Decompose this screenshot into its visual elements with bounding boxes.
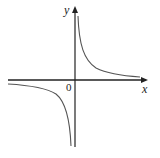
y-axis-label: y	[63, 3, 70, 17]
curve-branch-quadrant-3	[8, 84, 71, 146]
origin-label: 0	[66, 81, 72, 93]
curve-branch-quadrant-1	[78, 16, 140, 77]
y-axis-arrow-icon	[72, 6, 78, 13]
x-axis	[8, 77, 148, 83]
hyperbola-graph: y 0 x	[0, 0, 160, 158]
y-axis	[72, 6, 78, 147]
x-axis-label: x	[141, 82, 148, 96]
